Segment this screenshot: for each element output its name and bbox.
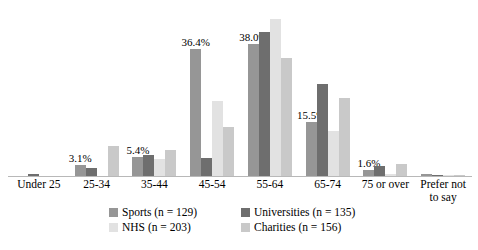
legend-row: Sports (n = 129)Universities (n = 135) (109, 206, 369, 219)
bar-group: 15.5% (299, 16, 357, 176)
bar: 5.4% (132, 157, 143, 176)
bar-group: 36.4% (183, 16, 241, 176)
bar-group: 38.0% (241, 16, 299, 176)
bar (396, 164, 407, 176)
bar: 38.0% (248, 44, 259, 176)
legend-swatch-icon (109, 208, 118, 217)
legend-swatch-icon (241, 223, 250, 232)
bar (281, 58, 292, 176)
bar-group: 1.6% (357, 16, 415, 176)
chart-legend: Sports (n = 129)Universities (n = 135)NH… (0, 206, 478, 246)
bar-group (414, 16, 472, 176)
legend-item-nhs[interactable]: NHS (n = 203) (109, 221, 227, 234)
bar (443, 175, 454, 176)
bar (339, 98, 350, 176)
bar: 36.4% (190, 49, 201, 176)
legend-item-universities[interactable]: Universities (n = 135) (241, 206, 369, 219)
bar (108, 146, 119, 176)
legend-label: Charities (n = 156) (254, 221, 341, 234)
x-axis-tick-label-line: to say (408, 191, 478, 204)
bar (454, 175, 465, 176)
bar-group (10, 16, 68, 176)
bar: 15.5% (306, 122, 317, 176)
legend-label: Sports (n = 129) (122, 206, 197, 219)
bar-value-label: 36.4% (181, 36, 209, 48)
legend-swatch-icon (109, 223, 118, 232)
legend-row: NHS (n = 203)Charities (n = 156) (109, 221, 369, 234)
bar (421, 174, 432, 176)
legend-swatch-icon (241, 208, 250, 217)
bar (374, 166, 385, 176)
legend-item-charities[interactable]: Charities (n = 156) (241, 221, 369, 234)
bar (432, 175, 443, 176)
bar: 1.6% (363, 170, 374, 176)
plot-area: 3.1%5.4%36.4%38.0%15.5%1.6% (0, 0, 478, 177)
bar-group: 3.1% (68, 16, 126, 176)
bar (317, 84, 328, 176)
bar-value-label: 3.1% (69, 152, 92, 164)
bar (223, 127, 234, 176)
x-axis-tick-label-line: Prefer not (408, 178, 478, 191)
bar (154, 159, 165, 176)
bar (28, 174, 39, 176)
bar (86, 168, 97, 176)
bar (259, 32, 270, 176)
bar (212, 101, 223, 176)
x-axis-line (8, 176, 472, 177)
legend-label: Universities (n = 135) (254, 206, 355, 219)
legend-label: NHS (n = 203) (122, 221, 191, 234)
bar-group: 5.4% (126, 16, 184, 176)
bar (270, 19, 281, 176)
bar: 3.1% (75, 165, 86, 176)
bar (143, 155, 154, 176)
bar (165, 150, 176, 176)
grouped-bar-chart: 3.1%5.4%36.4%38.0%15.5%1.6% Under 2525-3… (0, 0, 478, 250)
bar (385, 174, 396, 176)
bar (328, 131, 339, 176)
legend-item-sports[interactable]: Sports (n = 129) (109, 206, 227, 219)
bar (201, 158, 212, 176)
x-axis-tick-label: Prefer notto say (408, 178, 478, 204)
